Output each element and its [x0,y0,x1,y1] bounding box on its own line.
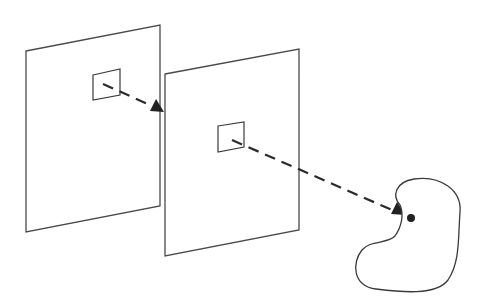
layer-2-patch [218,122,244,152]
target-point-icon [407,214,415,222]
layer-2-plane [165,49,299,256]
region-outline [356,178,460,291]
layer-1 [26,25,160,232]
diagram-svg [0,0,484,304]
layer-2 [165,49,299,256]
diagram-canvas [0,0,484,304]
output-region [356,178,460,291]
layer-1-plane [26,25,160,232]
